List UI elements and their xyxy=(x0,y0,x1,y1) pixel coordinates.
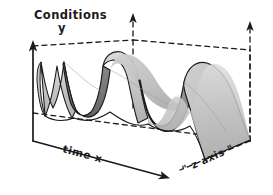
dashed-top-edge-left xyxy=(33,40,133,46)
figure-root: Conditions y time x " z axis " xyxy=(0,0,273,195)
page-title: Conditions xyxy=(34,8,107,22)
y-axis-solid xyxy=(29,40,37,141)
x-axis-label: time x xyxy=(61,142,103,164)
sketch-canvas: Conditions y time x " z axis " xyxy=(0,0,273,195)
y-axis-arrow-right-dashed xyxy=(246,21,253,141)
dashed-top-edge-right xyxy=(133,40,250,50)
surface-crest-far-left xyxy=(41,62,76,118)
y-axis-label: y xyxy=(58,21,66,35)
